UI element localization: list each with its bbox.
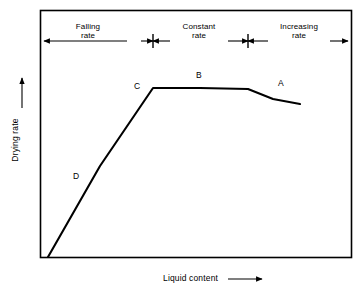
x-axis-label: Liquid content: [163, 274, 218, 284]
y-axis-label: Drying rate: [10, 107, 20, 173]
drying-rate-curve: [48, 88, 300, 257]
zone-label-increasing: Increasing rate: [259, 22, 339, 40]
y-axis-label-wrap: Drying rate: [0, 95, 30, 195]
zone-label-increasing-line1: Increasing: [259, 22, 339, 31]
drying-rate-curve-figure: Falling rate Constant rate Increasing ra…: [0, 0, 362, 295]
zone-label-constant: Constant rate: [159, 22, 239, 40]
zone-label-falling: Falling rate: [48, 22, 128, 40]
point-label-d: D: [73, 172, 79, 182]
plot-frame: [41, 11, 352, 258]
figure-canvas: [0, 0, 362, 295]
zone-label-falling-line1: Falling: [48, 22, 128, 31]
point-label-c: C: [134, 82, 140, 92]
point-label-a: A: [278, 79, 284, 89]
zone-label-constant-line1: Constant: [159, 22, 239, 31]
zone-label-increasing-line2: rate: [259, 31, 339, 40]
zone-label-falling-line2: rate: [48, 31, 128, 40]
zone-label-constant-line2: rate: [159, 31, 239, 40]
point-label-b: B: [196, 71, 202, 81]
